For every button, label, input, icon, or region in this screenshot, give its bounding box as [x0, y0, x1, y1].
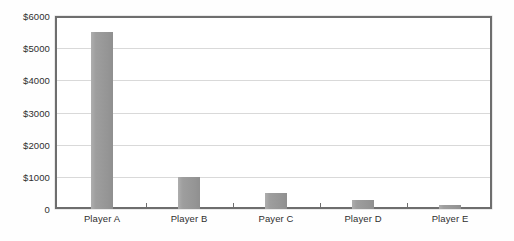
bars-layer	[55, 16, 492, 209]
x-tick-label-payer-c: Payer C	[258, 213, 293, 224]
bar-player-a[interactable]	[91, 32, 113, 209]
y-axis: $6000 $5000 $4000 $3000 $2000 $1000 0	[0, 0, 50, 241]
x-axis: Player A Player B Payer C Player D Playe…	[55, 213, 492, 233]
y-tick-label: $3000	[2, 107, 50, 118]
x-tick-mark	[233, 203, 235, 208]
y-tick-label: $4000	[2, 75, 50, 86]
x-tick-label-player-a: Player A	[84, 213, 120, 224]
x-tick-label-player-e: Player E	[432, 213, 469, 224]
x-axis-tick-marks	[55, 203, 492, 211]
x-tick-label-player-b: Player B	[171, 213, 208, 224]
bar-chart-figure: $6000 $5000 $4000 $3000 $2000 $1000 0	[0, 0, 514, 241]
y-tick-label: $6000	[2, 11, 50, 22]
y-tick-label: $1000	[2, 171, 50, 182]
x-tick-mark	[320, 203, 322, 208]
y-tick-label: 0	[2, 204, 50, 215]
y-tick-label: $2000	[2, 139, 50, 150]
x-tick-mark	[146, 203, 148, 208]
x-tick-mark	[407, 203, 409, 208]
x-tick-label-player-d: Player D	[344, 213, 381, 224]
y-tick-label: $5000	[2, 43, 50, 54]
